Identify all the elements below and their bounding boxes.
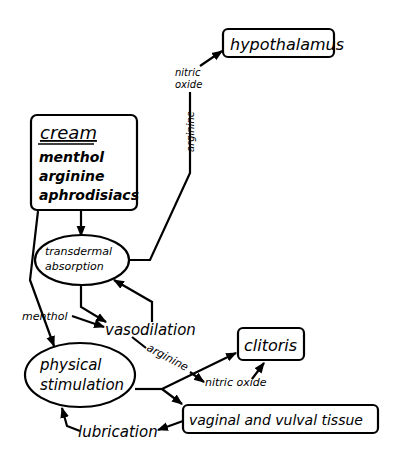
label-oxide: oxide — [175, 79, 202, 90]
label-arginine-diag: arginine — [145, 341, 191, 374]
edge-transdermal-vasodilation — [81, 285, 106, 322]
vaginal-label: vaginal and vulval tissue — [189, 412, 363, 428]
cream-item-menthol: menthol — [39, 149, 104, 165]
label-menthol: menthol — [22, 310, 68, 323]
clitoris-label: clitoris — [244, 336, 297, 355]
edge-transdermal-hypothalamus — [130, 92, 190, 260]
stimulation-label: stimulation — [40, 376, 124, 394]
node-clitoris: clitoris — [238, 328, 304, 360]
node-physical-stimulation: physical stimulation — [25, 343, 135, 407]
node-lubrication: lubrication — [78, 423, 158, 441]
edge-junction-vaginal — [162, 389, 182, 404]
edge-vaginal-lubrication — [158, 421, 183, 430]
label-nitric-oxide-bottom: nitric oxide — [205, 376, 267, 389]
cream-item-arginine: arginine — [39, 168, 104, 184]
transdermal-label: transdermal — [45, 245, 112, 258]
edge-vasodilation-transdermal — [114, 280, 152, 322]
cream-title: cream — [40, 122, 97, 143]
node-vasodilation: vasodilation — [105, 321, 196, 339]
label-arginine-vertical: arginine — [185, 111, 196, 152]
node-vaginal-tissue: vaginal and vulval tissue — [183, 405, 378, 433]
edge-nitric-oxide-hypothalamus — [200, 51, 222, 66]
diagram-canvas: hypothalamus cream menthol arginine aphr… — [0, 0, 400, 464]
cream-item-aphrodisiacs: aphrodisiacs — [39, 187, 139, 203]
label-nitric: nitric — [175, 67, 201, 78]
node-hypothalamus: hypothalamus — [223, 29, 344, 57]
physical-label: physical — [39, 356, 102, 374]
hypothalamus-label: hypothalamus — [230, 35, 344, 54]
node-cream: cream menthol arginine aphrodisiacs — [31, 115, 139, 210]
node-transdermal-absorption: transdermal absorption — [35, 235, 129, 285]
absorption-label: absorption — [45, 260, 104, 273]
